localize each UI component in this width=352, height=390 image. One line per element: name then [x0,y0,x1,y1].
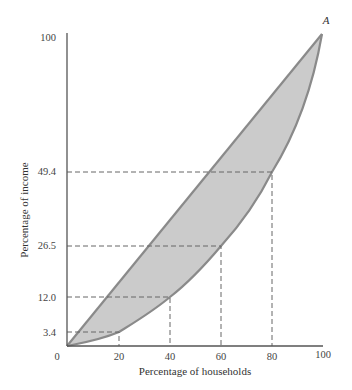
y-tick-26-5: 26.5 [38,240,56,251]
y-tick-3-4: 3.4 [43,327,57,338]
y-tick-12-0: 12.0 [38,292,56,303]
equality-line [67,34,322,346]
point-a-label: A [322,14,330,26]
y-axis-title: Percentage of income [18,162,30,257]
x-tick-20: 20 [114,351,125,362]
x-tick-60: 60 [216,351,227,362]
x-tick-100: 100 [315,349,331,360]
x-tick-0: 0 [54,351,59,362]
y-tick-100: 100 [40,32,56,43]
x-tick-80: 80 [267,351,278,362]
lorenz-chart: 100 49.4 26.5 12.0 3.4 0 20 40 60 80 100… [0,0,352,390]
y-tick-49-4: 49.4 [38,166,57,177]
x-axis-title: Percentage of households [139,365,251,377]
x-tick-40: 40 [165,351,176,362]
